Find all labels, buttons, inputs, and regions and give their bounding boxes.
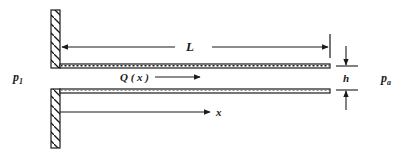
pressure-inlet-subscript: 1 bbox=[19, 77, 23, 86]
lower-plate bbox=[60, 89, 330, 93]
length-label: L bbox=[185, 39, 194, 54]
flow-arrow: Q ( x ) bbox=[120, 71, 200, 84]
length-dimension: L bbox=[62, 34, 330, 58]
left-wall-lower bbox=[51, 89, 60, 148]
flow-label: Q ( x ) bbox=[120, 71, 149, 84]
gap-dimension: h bbox=[336, 46, 358, 110]
pressure-outlet-label: pa bbox=[380, 71, 391, 87]
pressure-outlet-subscript: a bbox=[387, 78, 391, 87]
upper-plate bbox=[60, 64, 330, 68]
channel-diagram: L h Q ( x ) x p1 pa bbox=[0, 0, 405, 156]
left-wall-upper bbox=[51, 10, 60, 68]
x-axis-arrow: x bbox=[60, 106, 222, 118]
pressure-inlet-label: p1 bbox=[12, 70, 23, 86]
svg-text:p1: p1 bbox=[12, 70, 23, 86]
x-axis-label: x bbox=[215, 106, 222, 118]
pressure-inlet-symbol: p bbox=[12, 70, 19, 84]
gap-label: h bbox=[343, 72, 349, 84]
svg-text:pa: pa bbox=[380, 71, 391, 87]
pressure-outlet-symbol: p bbox=[380, 71, 387, 85]
